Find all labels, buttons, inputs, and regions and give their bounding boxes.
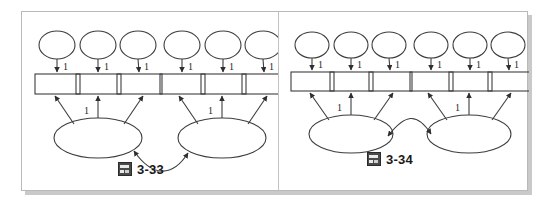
caption-label: 3-33 [137, 163, 164, 176]
figure-root: 1 1 1 1 1 1 1 1 3-33 [0, 0, 560, 212]
loading-path-f2-x4 [428, 93, 447, 120]
loading-weight-label-f1: 1 [337, 102, 342, 113]
panel-3-34: 1 1 1 1 1 1 1 1 3-34 [279, 12, 529, 192]
error-ellipse-e2 [334, 32, 368, 58]
error-path-e3 [389, 58, 390, 70]
error-ellipse-e5 [453, 32, 487, 58]
loading-path-f2-x4 [179, 96, 198, 124]
indicator-box-x6 [242, 74, 278, 94]
covariance-curve [388, 118, 431, 136]
error-ellipse-e4 [164, 31, 200, 59]
error-weight-label-2: 1 [357, 59, 362, 70]
error-weight-label-5: 1 [476, 59, 481, 70]
error-weight-label-2: 1 [104, 61, 109, 72]
error-path-e3 [138, 59, 139, 72]
error-path-e6 [508, 58, 509, 70]
indicator-box-x5 [201, 74, 246, 94]
indicator-box-x4 [410, 72, 453, 91]
loading-weight-label-f1: 1 [84, 105, 89, 116]
figure-card: 1 1 1 1 1 1 1 1 3-33 [21, 11, 528, 191]
error-weight-label-4: 1 [437, 59, 442, 70]
error-ellipse-e3 [372, 32, 406, 58]
indicator-box-x4 [160, 74, 205, 94]
factor-ellipse-f2 [178, 118, 266, 158]
error-ellipse-e6 [245, 31, 278, 59]
error-weight-label-5: 1 [229, 61, 234, 72]
loading-path-f2-x6 [248, 96, 267, 124]
error-weight-label-1: 1 [318, 59, 323, 70]
error-ellipse-e6 [491, 32, 525, 58]
error-ellipse-e3 [120, 31, 156, 59]
image-placeholder-icon [367, 152, 381, 166]
error-weight-label-1: 1 [63, 61, 68, 72]
caption-label: 3-34 [386, 153, 413, 166]
loading-path-f1-x1 [310, 93, 329, 120]
error-ellipse-e4 [414, 32, 448, 58]
error-weight-label-3: 1 [144, 61, 149, 72]
caption-3-33: 3-33 [118, 162, 164, 176]
loading-path-f2-x6 [492, 93, 511, 120]
error-ellipse-e1 [39, 31, 75, 59]
indicator-box-x3 [117, 74, 162, 94]
error-path-e6 [263, 59, 264, 72]
loading-path-f1-x1 [55, 96, 74, 124]
loading-path-f1-x3 [124, 96, 143, 124]
indicator-box-x2 [76, 74, 121, 94]
error-weight-label-6: 1 [514, 59, 519, 70]
indicator-box-x1 [291, 72, 334, 91]
indicator-box-x3 [369, 72, 412, 91]
image-placeholder-icon [118, 162, 132, 176]
loading-weight-label-f2: 1 [455, 102, 460, 113]
indicator-box-x6 [488, 72, 529, 91]
indicator-box-x5 [449, 72, 492, 91]
factor-ellipse-f2 [427, 115, 511, 153]
factor-ellipse-f1 [54, 118, 142, 158]
error-weight-label-4: 1 [188, 61, 193, 72]
loading-path-f1-x3 [374, 93, 393, 120]
caption-3-34: 3-34 [367, 152, 413, 166]
indicator-box-x1 [35, 74, 80, 94]
factor-ellipse-f1 [309, 115, 393, 153]
panel-3-33: 1 1 1 1 1 1 1 1 3-33 [22, 12, 278, 192]
indicator-box-x2 [330, 72, 373, 91]
error-ellipse-e1 [295, 32, 329, 58]
error-ellipse-e5 [205, 31, 241, 59]
loading-weight-label-f2: 1 [208, 105, 213, 116]
error-weight-label-3: 1 [395, 59, 400, 70]
error-weight-label-6: 1 [269, 61, 274, 72]
error-ellipse-e2 [80, 31, 116, 59]
